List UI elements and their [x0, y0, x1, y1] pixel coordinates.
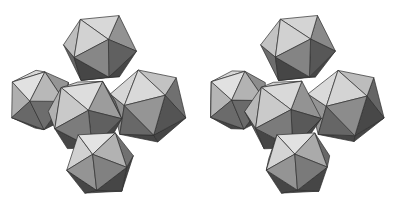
icosahedron-right	[308, 70, 384, 141]
icosahedron-top	[64, 16, 137, 81]
stereo-figure	[0, 0, 398, 200]
icosahedron-face	[120, 134, 158, 142]
right-stereo-view	[198, 0, 398, 200]
icosahedron-top	[261, 16, 336, 81]
icosahedron-bottom	[266, 133, 329, 193]
left-stereo-view	[0, 0, 200, 200]
icosahedron-right	[110, 70, 186, 142]
icosahedron-bottom	[67, 133, 134, 193]
